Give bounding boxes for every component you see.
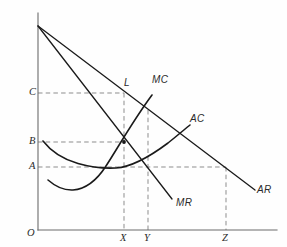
average-cost-curve [43,125,190,168]
average-cost-label: AC [190,114,205,124]
marginal-cost-label: MC [152,75,168,85]
quantity-label-y: Y [144,233,150,244]
equilibrium-point-marker [122,140,126,144]
average-revenue-label: AR [257,185,272,195]
marginal-revenue-label: MR [176,198,192,208]
price-label-c: C [29,87,36,98]
axes [38,13,277,230]
quantity-label-z: Z [222,233,228,244]
price-label-b: B [29,136,36,147]
origin-label: O [27,228,35,239]
marginal-cost-curve [48,95,152,190]
quantity-label-x: X [120,233,127,244]
price-label-a: A [29,161,36,172]
point-l-label: L [124,78,130,88]
diagram-canvas [0,0,287,247]
economics-diagram: C B A X Y Z O L MC AC MR AR [0,0,287,247]
